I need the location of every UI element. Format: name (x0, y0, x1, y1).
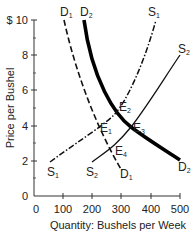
label-s1-bottom: S1 (47, 165, 59, 179)
label-d1-top: D1 (60, 5, 73, 19)
y-axis-label: Price per Bushel (4, 68, 16, 149)
label-e1: E1 (100, 121, 112, 135)
y-tick-10: $ 10 (7, 14, 28, 26)
y-tick-2: 2 (22, 155, 28, 167)
label-d1-bottom: D1 (120, 167, 133, 181)
x-tick-200: 200 (83, 203, 101, 215)
x-axis-label: Quantity: Bushels per Week (50, 219, 187, 231)
demand-curve-d2 (84, 20, 180, 160)
x-tick-100: 100 (54, 203, 72, 215)
label-s2-top: S2 (178, 42, 190, 56)
supply-curve-s2 (92, 55, 180, 162)
x-tick-300: 300 (112, 203, 130, 215)
label-e2: E2 (119, 100, 131, 114)
label-s2-bottom: S2 (86, 165, 98, 179)
label-s1-top: S1 (148, 5, 160, 19)
y-tick-6: 6 (22, 84, 28, 96)
y-tick-8: 8 (22, 49, 28, 61)
x-tick-0: 0 (33, 203, 39, 215)
y-tick-0: 0 (22, 190, 28, 202)
x-axis: 0 100 200 300 400 500 Quantity: Bushels … (33, 193, 189, 231)
y-axis: $ 10 8 6 4 2 0 Price per Bushel (4, 14, 37, 202)
supply-demand-chart: $ 10 8 6 4 2 0 Price per Bushel 0 100 20… (0, 0, 194, 234)
x-tick-400: 400 (142, 203, 160, 215)
label-d2-bottom: D2 (178, 160, 191, 174)
label-e3: E3 (133, 121, 145, 135)
label-e4: E4 (115, 144, 127, 158)
x-tick-500: 500 (171, 203, 189, 215)
y-tick-4: 4 (22, 120, 28, 132)
demand-curve-d1 (64, 20, 122, 171)
label-d2-top: D2 (80, 5, 93, 19)
